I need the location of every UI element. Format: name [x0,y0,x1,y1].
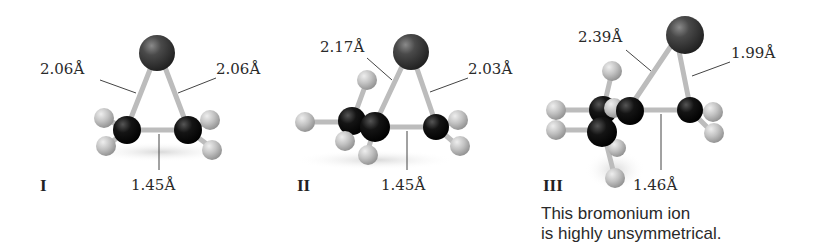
hydrogen-atom [202,140,222,160]
bond-length-left: 2.17Å [320,38,364,56]
hydrogen-atom [704,123,724,143]
hydrogen-atom [357,70,377,90]
bond-length-left: 2.39Å [578,28,622,46]
structure-II: 2.17Å 2.03Å 1.45Å II [295,34,512,195]
hydrogen-atom [200,110,220,130]
carbon-atom [587,117,617,147]
carbon-atom [174,116,202,144]
hydrogen-atom [335,131,355,151]
bond-length-cc: 1.45Å [381,176,425,194]
hydrogen-atom [605,168,625,188]
carbon-atom [616,97,644,125]
hydrogen-atom [546,120,566,140]
caption-line-1: This bromonium ion [541,204,721,224]
carbon-atom [677,97,703,123]
hydrogen-atom [450,136,470,156]
bond-length-right: 2.06Å [216,60,260,78]
hydrogen-atom [96,136,116,156]
bromine-atom [139,35,175,71]
structure-label: III [543,176,563,195]
bond-length-right: 2.03Å [468,60,512,78]
figure-caption: This bromonium ion is highly unsymmetric… [541,204,721,244]
bond-length-left: 2.06Å [40,60,84,78]
carbon-atom [113,116,141,144]
hydrogen-atom [703,102,723,122]
hydrogen-atom [546,100,566,120]
bromine-atom [666,16,704,54]
structure-label: I [40,176,47,195]
hydrogen-atom [448,110,468,130]
hydrogen-atom [295,112,315,132]
caption-line-2: is highly unsymmetrical. [541,224,721,244]
bond-length-cc: 1.45Å [131,176,175,194]
hydrogen-atom [94,108,114,128]
bond-length-right: 1.99Å [731,44,775,62]
structure-label: II [297,176,311,195]
bond-length-cc: 1.46Å [633,176,677,194]
hydrogen-atom [358,145,378,165]
hydrogen-atom [602,61,622,81]
carbon-atom [360,112,390,142]
bromine-atom [393,34,429,70]
carbon-atom [423,114,449,140]
structure-III: 2.39Å 1.99Å 1.46Å III [543,16,775,195]
structure-I: 2.06Å 2.06Å 1.45Å I [40,35,260,195]
